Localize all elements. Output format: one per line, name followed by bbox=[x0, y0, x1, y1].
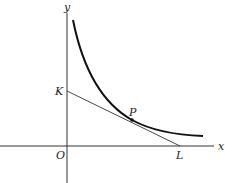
point-p-label: P bbox=[128, 106, 137, 119]
curve bbox=[73, 20, 203, 136]
x-axis-label: x bbox=[218, 140, 225, 153]
tangent-line bbox=[67, 91, 180, 146]
point-l-label: L bbox=[175, 149, 183, 162]
diagram-canvas: y x O K P L bbox=[0, 0, 225, 183]
y-axis-label: y bbox=[63, 1, 71, 14]
point-k-label: K bbox=[54, 85, 64, 98]
origin-label: O bbox=[56, 149, 65, 162]
